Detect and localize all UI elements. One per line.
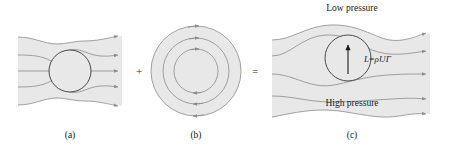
panel-b-group bbox=[151, 26, 241, 116]
figure-container: Low pressure High pressure L=ρUΓ + = (a)… bbox=[0, 0, 456, 149]
panel-a-group bbox=[18, 36, 122, 106]
panel-b-outer-disc bbox=[151, 26, 241, 116]
panel-c-group bbox=[272, 25, 430, 117]
panel-a-cylinder bbox=[49, 50, 91, 92]
lift-decomposition-diagram bbox=[0, 0, 456, 149]
